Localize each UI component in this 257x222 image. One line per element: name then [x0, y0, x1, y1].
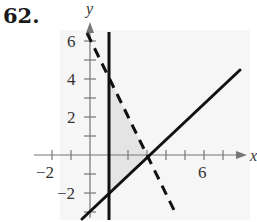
y-tick-6: 6: [67, 32, 76, 51]
x-axis-label: x: [249, 147, 257, 164]
y-tick-4: 4: [67, 70, 76, 89]
x-tick-neg2: −2: [36, 163, 54, 182]
y-tick-neg2: −2: [57, 184, 75, 203]
y-axis-label: y: [84, 0, 94, 18]
graph: −2 6 6 4 2 −2 y x: [0, 0, 257, 222]
y-tick-2: 2: [67, 108, 76, 127]
plot-background: [60, 30, 250, 220]
x-tick-6: 6: [198, 163, 207, 182]
